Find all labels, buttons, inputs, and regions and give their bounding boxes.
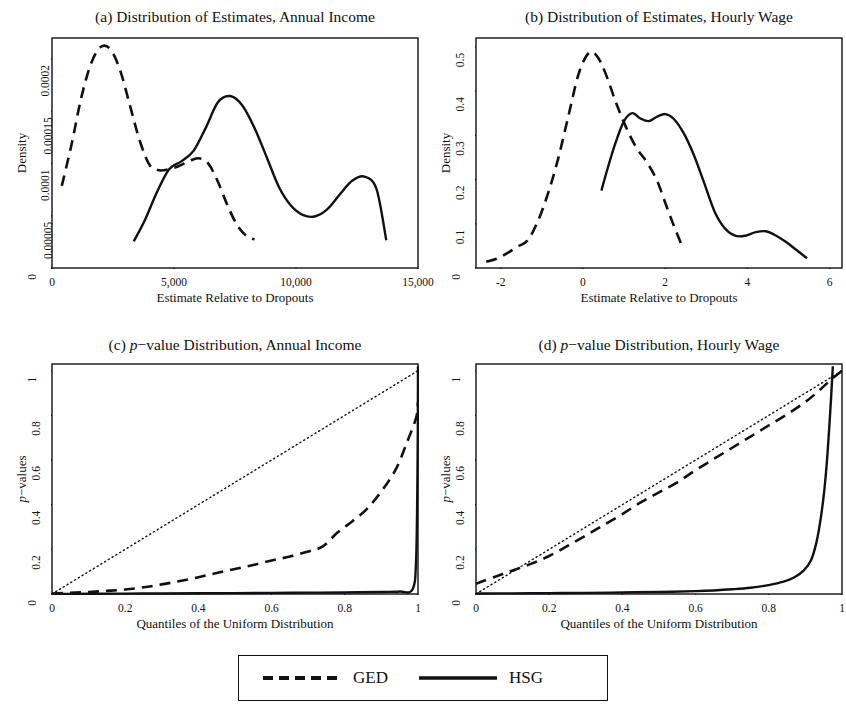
panel-d-ytick-label: 0.6 (454, 466, 466, 480)
figure-root: (a) Distribution of Estimates, Annual In… (0, 0, 846, 722)
legend: GEDHSG (238, 655, 608, 701)
panel-d-series-hsg (476, 366, 833, 593)
panel-d-title: (d) p−value Distribution, Hourly Wage (476, 336, 842, 354)
panel-d-xtick-label: 0.2 (542, 602, 556, 614)
panel-d-xtick-label: 1 (839, 602, 845, 614)
panel-d-xaxis-label: Quantiles of the Uniform Distribution (476, 616, 842, 632)
panel-d-frame (476, 364, 842, 594)
panel-d-xtick-label: 0.4 (615, 602, 629, 614)
panel-d-title-italic-p: p (560, 336, 568, 353)
legend-item-ged: GED (261, 667, 388, 689)
panel-d-xtick-label: 0.6 (688, 602, 702, 614)
legend-swatch-dashed (261, 667, 343, 689)
panel-d-reference-line-45deg (476, 371, 842, 594)
panel-d-ytick-label: 0.2 (454, 555, 466, 569)
legend-label-hsg: HSG (509, 668, 543, 688)
panel-d-xtick-label: 0 (473, 602, 479, 614)
legend-item-hsg: HSG (417, 667, 543, 689)
panel-d-yaxis-label: p−values (438, 455, 454, 502)
panel-d-ytick-label: 1 (450, 377, 462, 383)
panel-d-ytick-label: 0.8 (454, 421, 466, 435)
panel-d-ytick-label: 0.4 (454, 511, 466, 525)
panel-d-plot-area (475, 363, 843, 595)
panel-d-ytick-label: 0 (450, 600, 462, 606)
legend-label-ged: GED (353, 668, 388, 688)
panel-d: (d) p−value Distribution, Hourly Wage00.… (0, 0, 846, 722)
panel-d-series-ged (476, 371, 842, 584)
panel-d-yaxis-label-italic-p: p (438, 496, 453, 503)
legend-swatch-solid (417, 667, 499, 689)
panel-d-xtick-label: 0.8 (762, 602, 776, 614)
